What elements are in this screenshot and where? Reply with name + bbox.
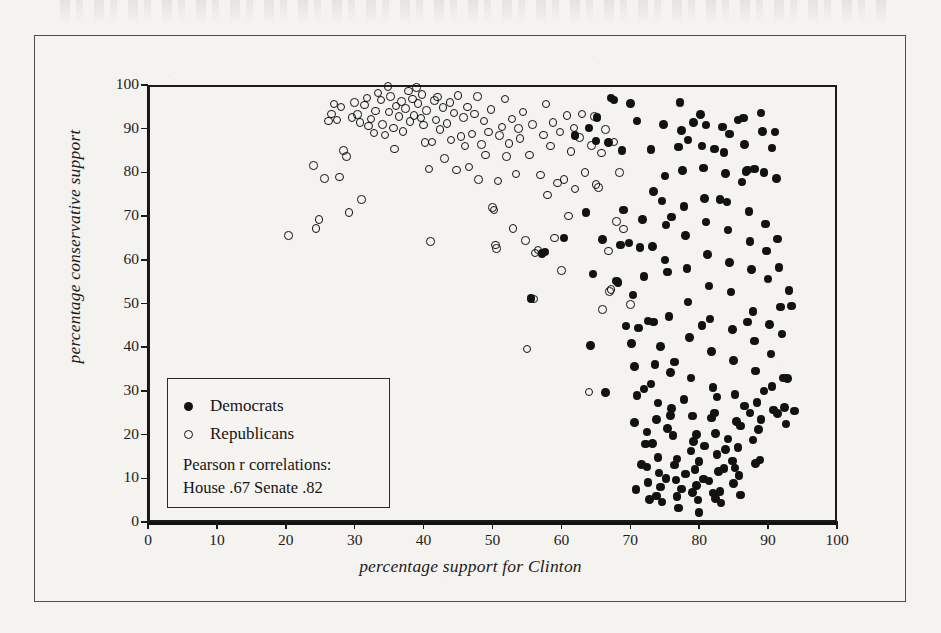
data-point-republican [553,179,562,188]
data-point-democrat [656,483,665,492]
data-point-democrat [616,241,625,250]
data-point-democrat [768,382,777,391]
data-point-democrat [716,487,725,496]
data-point-republican [397,97,406,106]
legend-label-republicans: Republicans [210,424,294,444]
data-point-republican [490,206,499,215]
data-point-republican [350,98,359,107]
data-point-democrat [648,439,657,448]
data-point-republican [337,103,346,112]
data-point-republican [480,117,489,126]
data-point-republican [615,168,624,177]
data-point-democrat [614,278,623,287]
data-point-democrat [634,324,643,333]
y-tick-label: 80 [95,162,139,180]
data-point-republican [585,388,594,397]
data-point-democrat [687,447,696,456]
data-point-democrat [734,443,743,452]
data-point-democrat [585,124,594,133]
data-point-democrat [622,322,631,331]
data-point-republican [477,140,486,149]
data-point-republican [339,146,348,155]
data-point-democrat [761,220,770,229]
data-point-republican [433,93,442,102]
data-point-republican [370,129,379,138]
data-point-democrat [681,231,690,240]
data-point-democrat [625,239,634,248]
x-tick-mark [767,522,769,529]
data-point-republican [575,133,584,142]
data-point-democrat [727,288,736,297]
data-point-democrat [670,358,679,367]
data-point-democrat [724,226,733,235]
data-point-democrat [729,479,738,488]
data-point-republican [421,138,430,147]
data-point-democrat [571,131,580,140]
data-point-democrat [677,126,686,135]
data-point-democrat [527,294,536,303]
data-point-democrat [641,440,650,449]
data-point-democrat [754,425,763,434]
data-point-republican [315,215,324,224]
data-point-democrat [703,250,712,259]
data-point-democrat [610,96,619,105]
data-point-democrat [721,169,730,178]
data-point-democrat [651,360,660,369]
data-point-democrat [665,312,674,321]
x-tick-label: 100 [807,531,867,549]
data-point-democrat [776,303,785,312]
data-point-republican [488,203,497,212]
data-point-democrat [779,374,788,383]
data-point-democrat [700,442,709,451]
data-point-democrat [672,476,681,485]
data-point-republican [452,166,461,175]
data-point-democrat [745,207,754,216]
data-point-democrat [652,415,661,424]
data-point-democrat [705,282,714,291]
x-tick-mark [216,522,218,529]
data-point-democrat [674,143,683,152]
x-tick-mark [630,522,632,529]
data-point-republican [419,121,428,130]
data-point-democrat [711,429,720,438]
y-tick-mark [141,84,148,86]
data-point-republican [619,225,628,234]
data-point-republican [543,191,552,200]
data-point-republican [581,168,590,177]
data-point-democrat [734,116,743,125]
data-point-democrat [760,387,769,396]
figure-page: 0102030405060708090100 01020304050607080… [0,0,941,633]
data-point-democrat [746,409,755,418]
data-point-democrat [771,128,780,137]
y-tick-label: 20 [95,425,139,443]
data-point-democrat [790,407,799,416]
data-point-democrat [637,460,646,469]
data-point-republican [564,212,573,221]
data-point-republican [353,110,362,119]
data-point-democrat [640,272,649,281]
legend-box: Democrats Republicans Pearson r correlat… [167,378,390,508]
data-point-republican [531,249,540,258]
data-point-republican [484,128,493,137]
data-point-democrat [683,264,692,273]
y-tick-mark [141,303,148,305]
data-point-democrat [731,464,740,473]
data-point-democrat [674,504,683,513]
data-point-democrat [649,318,658,327]
data-point-democrat [718,123,727,132]
data-point-democrat [732,417,741,426]
data-point-democrat [709,383,718,392]
data-point-democrat [654,399,663,408]
data-point-democrat [632,485,641,494]
data-point-democrat [753,398,762,407]
data-point-republican [502,152,511,161]
data-point-republican [530,295,539,304]
data-point-republican [505,139,514,148]
data-point-republican [587,141,596,150]
data-point-democrat [643,463,652,472]
data-point-democrat [648,242,657,251]
data-point-democrat [676,98,685,107]
data-point-democrat [742,167,751,176]
x-tick-mark [836,522,838,529]
data-point-republican [324,117,333,126]
